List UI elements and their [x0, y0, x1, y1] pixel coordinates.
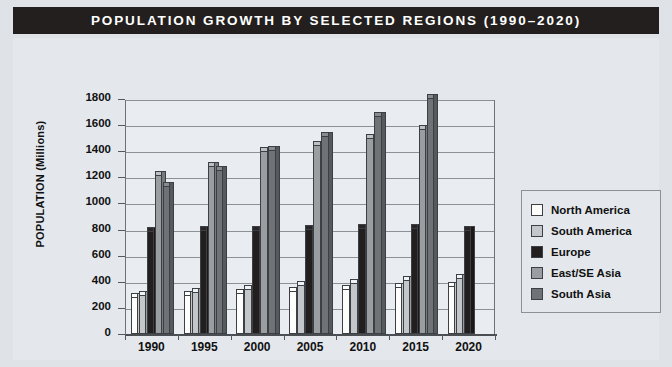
bar-top [395, 283, 402, 287]
bar-face [192, 292, 199, 334]
bar-top [350, 279, 357, 283]
x-tick-label: 1995 [177, 340, 231, 354]
bar-face [358, 228, 365, 334]
bar [147, 231, 154, 334]
bar-top [411, 224, 418, 228]
legend-label: Europe [551, 246, 591, 258]
bar-face [289, 291, 296, 334]
bar-top [456, 274, 463, 278]
bar [305, 229, 312, 334]
bar-face [147, 231, 154, 334]
x-tick-mark [178, 334, 179, 340]
bar-face [252, 230, 259, 334]
bar-side [471, 226, 475, 334]
bar [313, 145, 320, 334]
bar-top [289, 287, 296, 291]
x-tick-mark [231, 334, 232, 340]
y-gridline [126, 204, 494, 205]
bar [403, 280, 410, 334]
bar [366, 138, 373, 334]
bar [358, 228, 365, 334]
y-gridline [126, 152, 494, 153]
y-tick-mark [118, 125, 125, 126]
bar-face [342, 289, 349, 334]
bar [350, 283, 357, 334]
bar [236, 293, 243, 334]
bar-top [244, 285, 251, 289]
bar [289, 291, 296, 334]
bar-top [427, 94, 434, 98]
y-axis-title: POPULATION (Millions) [34, 94, 46, 274]
bar-face [216, 170, 223, 335]
bar-side [223, 166, 227, 335]
y-tick-mark [118, 203, 125, 204]
bar-top [321, 132, 328, 136]
legend-label: South America [551, 225, 632, 237]
bar [448, 286, 455, 334]
x-tick-label: 2005 [283, 340, 337, 354]
bar-top [448, 282, 455, 286]
bar-top [403, 276, 410, 280]
bar [395, 287, 402, 334]
bar-side [276, 146, 280, 334]
x-tick-label: 2020 [442, 340, 496, 354]
bar-top [342, 285, 349, 289]
bar [139, 295, 146, 334]
legend-swatch-icon [531, 225, 543, 237]
y-tick-label: 1800 [63, 91, 111, 103]
x-tick-label: 2015 [389, 340, 443, 354]
bar-face [305, 229, 312, 334]
bar [131, 297, 138, 334]
bar-face [456, 278, 463, 334]
bar [260, 151, 267, 334]
legend-item[interactable]: North America [531, 199, 651, 220]
bar-top [192, 288, 199, 292]
bar-top [358, 224, 365, 228]
bar-top [305, 225, 312, 229]
y-tick-mark [118, 177, 125, 178]
bar-face [184, 295, 191, 334]
y-tick-label: 1200 [63, 169, 111, 181]
y-tick-label: 1000 [63, 195, 111, 207]
legend-swatch-icon [531, 246, 543, 258]
bar-face [411, 228, 418, 334]
bar-face [200, 230, 207, 334]
x-tick-mark [284, 334, 285, 340]
bar-face [427, 98, 434, 334]
x-tick-label: 1990 [124, 340, 178, 354]
bar-top [184, 291, 191, 295]
bar-face [131, 297, 138, 334]
legend-item[interactable]: East/SE Asia [531, 262, 651, 283]
bar-face [236, 293, 243, 334]
x-tick-label: 2010 [336, 340, 390, 354]
y-tick-mark [118, 334, 125, 335]
y-tick-mark [118, 230, 125, 231]
y-tick-label: 600 [63, 248, 111, 260]
legend-item[interactable]: South Asia [531, 283, 651, 304]
bar [411, 228, 418, 334]
x-tick-mark [442, 334, 443, 340]
bar-top [297, 281, 304, 285]
y-gridline [126, 100, 494, 101]
y-tick-mark [118, 99, 125, 100]
bar-top [236, 289, 243, 293]
chart-figure: POPULATION GROWTH BY SELECTED REGIONS (1… [0, 0, 672, 367]
bar [252, 230, 259, 334]
bar-top [131, 293, 138, 297]
page-title: POPULATION GROWTH BY SELECTED REGIONS (1… [91, 13, 581, 28]
bar [244, 289, 251, 334]
y-tick-mark [118, 308, 125, 309]
bar-top [268, 146, 275, 150]
bar-face [244, 289, 251, 334]
bar-face [139, 295, 146, 334]
bar-top [155, 171, 162, 175]
legend-swatch-icon [531, 204, 543, 216]
legend-item[interactable]: South America [531, 220, 651, 241]
y-tick-mark [118, 151, 125, 152]
bar-face [403, 280, 410, 334]
bar [216, 170, 223, 335]
y-tick-label: 1400 [63, 143, 111, 155]
bar [419, 129, 426, 334]
y-tick-label: 200 [63, 300, 111, 312]
legend-item[interactable]: Europe [531, 241, 651, 262]
